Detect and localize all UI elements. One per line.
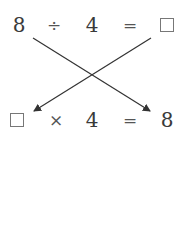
multiply-sign: × bbox=[49, 112, 63, 129]
bottom-product: 8 bbox=[161, 110, 174, 130]
bottom-answer-box[interactable] bbox=[10, 113, 24, 127]
bottom-factor: 4 bbox=[86, 110, 99, 130]
bottom-equals-sign: = bbox=[123, 112, 137, 129]
